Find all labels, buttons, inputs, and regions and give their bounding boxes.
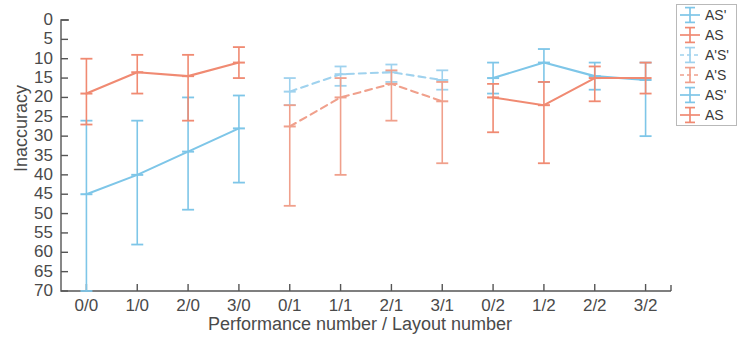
x-tick-label: 3/1 — [419, 296, 465, 316]
x-tick-label: 1/0 — [114, 296, 160, 316]
legend-label: AS' — [705, 7, 726, 23]
legend-item: AS' — [677, 5, 736, 25]
series-line — [86, 63, 239, 94]
x-tick-label: 0/0 — [63, 296, 109, 316]
x-tick-label: 2/0 — [165, 296, 211, 316]
chart-figure: Inaccuracy 0510152025303540455055606570 … — [0, 0, 737, 342]
series-ApSp-g1 — [284, 65, 449, 106]
legend-item: A'S — [677, 65, 736, 85]
legend-item: AS — [677, 105, 736, 125]
legend-label: AS — [705, 27, 724, 43]
x-axis-title: Performance number / Layout number — [40, 314, 680, 335]
series-line — [86, 128, 239, 194]
legend-marker-icon — [679, 46, 701, 64]
legend-marker-icon — [679, 6, 701, 24]
series-line — [290, 72, 443, 91]
x-tick-label: 0/2 — [470, 296, 516, 316]
legend-item: AS' — [677, 85, 736, 105]
series-AS-g0 — [80, 47, 245, 124]
x-tick-label: 3/2 — [623, 296, 669, 316]
legend-item: AS — [677, 25, 736, 45]
legend-label: AS — [705, 107, 724, 123]
legend-marker-icon — [679, 86, 701, 104]
legend-marker-icon — [679, 66, 701, 84]
legend-marker-icon — [679, 106, 701, 124]
series-ApS-g1 — [284, 70, 449, 206]
series-line — [493, 78, 645, 105]
x-tick-label: 1/1 — [318, 296, 364, 316]
series-AS-g2 — [487, 63, 651, 164]
legend-marker-icon — [679, 26, 701, 44]
x-tick-label: 2/1 — [368, 296, 414, 316]
x-tick-label: 2/2 — [572, 296, 618, 316]
legend-label: AS' — [705, 87, 726, 103]
legend-label: A'S' — [705, 47, 729, 63]
legend-item: A'S' — [677, 45, 736, 65]
legend-label: A'S — [705, 67, 726, 83]
chart-legend: AS'ASA'S'A'SAS'AS — [676, 4, 737, 126]
series-ASp-g0 — [80, 95, 245, 291]
x-tick-label: 0/1 — [267, 296, 313, 316]
plot-area — [0, 0, 737, 342]
series-line — [290, 84, 443, 127]
x-tick-label: 1/2 — [521, 296, 567, 316]
x-tick-label: 3/0 — [216, 296, 262, 316]
